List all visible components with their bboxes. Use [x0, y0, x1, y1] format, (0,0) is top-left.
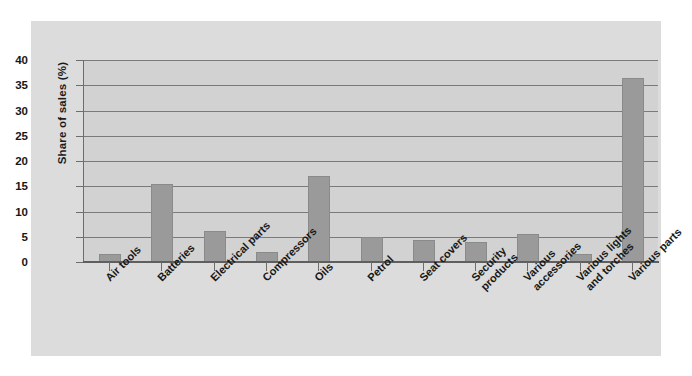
- y-tick-label-35: 35: [4, 79, 28, 91]
- y-tick-mark-30: [76, 111, 83, 112]
- y-tick-mark-0: [76, 262, 83, 263]
- gridline-25: [84, 136, 658, 137]
- y-tick-label-25: 25: [4, 130, 28, 142]
- y-tick-label-10: 10: [4, 206, 28, 218]
- y-tick-label-0: 0: [4, 256, 28, 268]
- gridline-40: [84, 60, 658, 61]
- y-tick-label-20: 20: [4, 155, 28, 167]
- y-tick-mark-35: [76, 85, 83, 86]
- gridline-35: [84, 85, 658, 86]
- y-tick-mark-40: [76, 60, 83, 61]
- bar: [517, 234, 539, 262]
- y-tick-label-15: 15: [4, 180, 28, 192]
- gridline-30: [84, 111, 658, 112]
- bar: [204, 231, 226, 262]
- gridline-20: [84, 161, 658, 162]
- y-tick-label-40: 40: [4, 54, 28, 66]
- y-tick-mark-5: [76, 237, 83, 238]
- y-tick-label-30: 30: [4, 105, 28, 117]
- bar: [361, 237, 383, 262]
- y-axis-title: Share of sales (%): [56, 28, 68, 198]
- y-tick-mark-15: [76, 186, 83, 187]
- plot-area: [83, 60, 658, 262]
- x-axis-label: Oils: [312, 260, 336, 284]
- x-axis-label-line: Oils: [312, 260, 336, 284]
- y-tick-mark-25: [76, 136, 83, 137]
- y-tick-mark-10: [76, 212, 83, 213]
- bar: [151, 184, 173, 262]
- bar: [308, 176, 330, 262]
- y-tick-label-5: 5: [4, 231, 28, 243]
- chart-page: Share of sales (%) 4035302520151050 Air …: [0, 0, 692, 376]
- figure-panel: Share of sales (%) 4035302520151050 Air …: [31, 21, 661, 356]
- y-tick-mark-20: [76, 161, 83, 162]
